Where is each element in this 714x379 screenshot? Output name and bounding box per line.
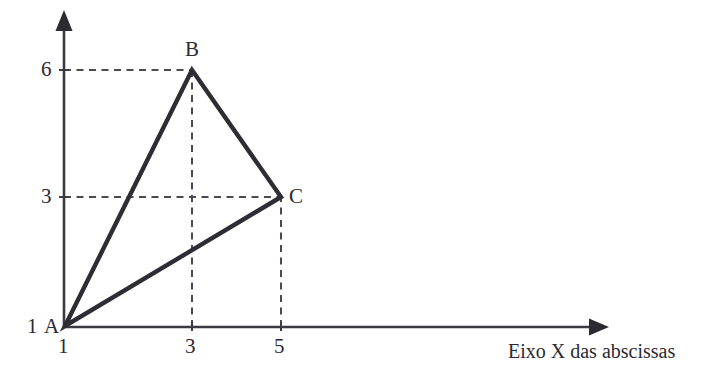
y-tick-label-3: 3 bbox=[41, 186, 52, 207]
x-tick-label-5: 5 bbox=[274, 336, 285, 357]
y-axis-arrowhead bbox=[56, 10, 73, 31]
cartesian-plot-svg bbox=[0, 0, 714, 379]
x-axis-arrowhead bbox=[589, 319, 609, 336]
vertex-label-c: C bbox=[289, 186, 303, 207]
x-tick-label-1: 1 bbox=[58, 336, 69, 357]
triangle-abc bbox=[65, 70, 281, 326]
y-tick-label-1: 1 bbox=[27, 316, 38, 337]
figure-canvas: 6 3 1 1 3 5 A B C Eixo X das abscissas bbox=[0, 0, 714, 379]
vertex-label-a: A bbox=[44, 316, 59, 337]
y-tick-label-6: 6 bbox=[41, 59, 52, 80]
vertex-label-b: B bbox=[185, 39, 199, 60]
x-tick-label-3: 3 bbox=[185, 336, 196, 357]
x-axis-caption: Eixo X das abscissas bbox=[508, 341, 675, 361]
